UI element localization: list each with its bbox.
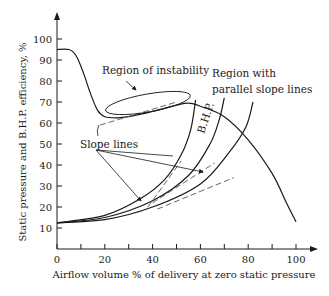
x-ticks: 020406080100 — [54, 244, 306, 265]
annotation-bhp: B.H.P. — [195, 101, 216, 135]
x-tick-label: 100 — [286, 254, 305, 265]
y-tick-label: 100 — [33, 34, 52, 45]
x-axis-title: Airflow volume % of delivery at zero sta… — [52, 269, 316, 280]
annotation-slope-lines: Slope lines — [80, 138, 138, 150]
x-tick-label: 80 — [242, 254, 255, 265]
y-ticks: 102030405060708090100 — [33, 34, 62, 234]
annotation-instability: Region of instability — [102, 64, 209, 76]
x-tick-label: 40 — [146, 254, 159, 265]
y-tick-label: 60 — [39, 118, 52, 129]
annotation-parallel-1: Region with — [212, 67, 276, 79]
axes — [54, 12, 318, 252]
slope-lines-leader-top — [97, 125, 99, 136]
y-tick-label: 40 — [39, 160, 52, 171]
y-axis-arrow — [54, 12, 60, 20]
y-tick-label: 20 — [39, 202, 52, 213]
y-tick-label: 70 — [39, 97, 52, 108]
x-tick-label: 60 — [194, 254, 207, 265]
chart: 020406080100 102030405060708090100 Airfl… — [0, 0, 329, 296]
annotation-parallel-2: parallel slope lines — [212, 83, 312, 95]
instability-arrow — [126, 81, 136, 90]
y-tick-label: 10 — [39, 223, 52, 234]
y-tick-label: 50 — [39, 139, 52, 150]
y-axis-title: Static pressure and B.H.P. efficiency, % — [17, 42, 28, 241]
x-tick-label: 20 — [98, 254, 111, 265]
slope-arrow-1 — [96, 150, 173, 156]
y-tick-label: 30 — [39, 181, 52, 192]
x-axis-arrow — [310, 246, 318, 252]
y-tick-label: 80 — [39, 76, 52, 87]
series-bhp-curve-1 — [57, 100, 196, 223]
instability-ellipse — [104, 87, 192, 120]
slope-line — [157, 178, 233, 210]
x-tick-label: 0 — [54, 254, 60, 265]
y-tick-label: 90 — [39, 55, 52, 66]
